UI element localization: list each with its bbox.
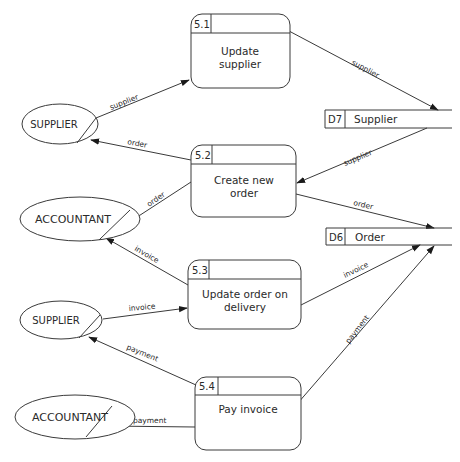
flow-arrow-5-2-to-d6 [296, 194, 434, 228]
flow-label: order [353, 198, 375, 211]
entity-name: SUPPLIER [30, 119, 78, 130]
process-5-3: 5.3 Update order on delivery [188, 260, 301, 329]
process-name-line2: supplier [219, 58, 262, 70]
data-store-d6: D6 Order [326, 228, 452, 245]
process-5-4: 5.4 Pay invoice [195, 377, 301, 450]
flow-label: supplier [108, 92, 140, 112]
process-5-2: 5.2 Create new order [191, 145, 296, 217]
flow-arrow-5-2-to-accountant [131, 182, 191, 221]
flow-arrow-5-4-to-supplier [89, 337, 196, 385]
store-id: D6 [329, 232, 343, 243]
external-entity-accountant-2: ACCOUNTANT [15, 395, 135, 439]
process-id: 5.3 [192, 265, 208, 276]
flow-label: invoice [128, 302, 156, 313]
external-entity-accountant-1: ACCOUNTANT [20, 197, 140, 241]
flow-arrow-5-3-to-d6 [301, 245, 420, 305]
external-entity-supplier-1: SUPPLIER [22, 104, 98, 144]
process-5-1: 5.1 Update supplier [191, 14, 290, 88]
entity-name: ACCOUNTANT [35, 213, 111, 226]
entity-name: ACCOUNTANT [32, 411, 108, 424]
entity-name: SUPPLIER [32, 315, 80, 326]
flow-label: order [145, 190, 167, 209]
flow-arrow-supplier-to-5-1 [96, 80, 189, 118]
flow-label: supplier [342, 147, 374, 167]
flows [89, 31, 438, 427]
flow-label: payment [125, 343, 159, 364]
flow-label: payment [343, 313, 371, 345]
process-name-line1: Create new [214, 174, 274, 186]
store-id: D7 [328, 114, 342, 125]
external-entity-supplier-2: SUPPLIER [20, 301, 102, 339]
process-id: 5.4 [199, 381, 215, 392]
flow-label: invoice [133, 244, 161, 265]
process-name-line1: Update order on [202, 288, 288, 300]
process-id: 5.1 [194, 19, 210, 30]
process-name-line2: delivery [224, 301, 266, 313]
store-name: Order [355, 231, 386, 243]
data-store-d7: D7 Supplier [325, 110, 452, 128]
process-name-line1: Update [221, 45, 259, 57]
flow-arrow-5-3-to-accountant [106, 238, 188, 285]
process-name-line2: order [230, 187, 259, 199]
store-name: Supplier [354, 113, 398, 125]
process-id: 5.2 [195, 150, 211, 161]
flow-label: payment [133, 416, 166, 425]
data-flow-diagram: supplier supplier order supplier order o… [0, 0, 460, 462]
process-name-line1: Pay invoice [218, 403, 277, 415]
flow-label: supplier [350, 58, 382, 80]
